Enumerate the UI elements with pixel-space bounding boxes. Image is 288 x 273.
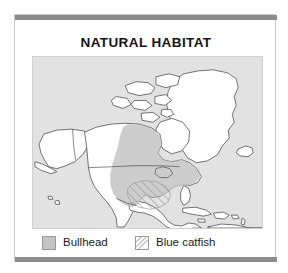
page-title: NATURAL HABITAT — [15, 35, 277, 50]
top-accent-bar — [15, 15, 277, 20]
north-america-map — [32, 56, 263, 229]
legend-label-blue-catfish: Blue catfish — [156, 237, 215, 249]
legend-item-bullhead[interactable]: Bullhead — [42, 233, 108, 253]
diagonal-hatch-swatch-icon — [135, 236, 149, 250]
bottom-accent-bar — [15, 257, 277, 262]
habitat-legend: Bullhead Blue catfish — [32, 233, 263, 253]
legend-item-blue-catfish[interactable]: Blue catfish — [135, 233, 215, 253]
legend-label-bullhead: Bullhead — [63, 237, 108, 249]
small-island-dot-1 — [48, 196, 53, 199]
map-graphic — [33, 57, 262, 228]
solid-gray-swatch-icon — [42, 236, 56, 250]
jamaica-island — [198, 219, 206, 222]
habitat-figure: NATURAL HABITAT — [14, 14, 276, 261]
small-island-dot-2 — [55, 200, 60, 204]
